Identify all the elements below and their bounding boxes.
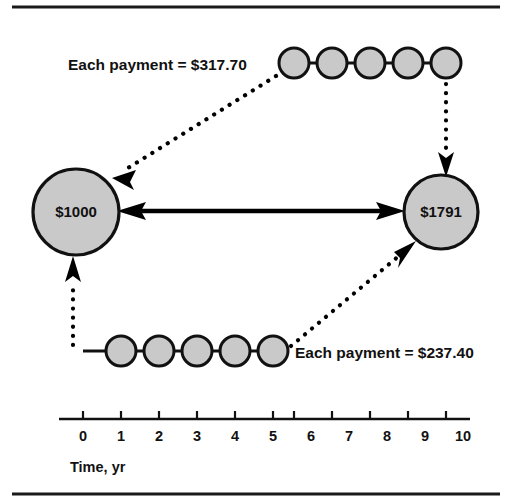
axis-tick-labels: 0 1 2 3 4 5 6 7 8 9 10 — [79, 428, 471, 444]
payment-circle-year-1[interactable] — [106, 336, 136, 366]
payment-circle-year-7[interactable] — [317, 48, 347, 78]
payment-circle-year-2[interactable] — [144, 336, 174, 366]
present-worth-label: $1000 — [55, 203, 97, 220]
payment-circle-year-5[interactable] — [258, 336, 288, 366]
axis-tick-label-7: 7 — [345, 428, 353, 444]
equivalence-double-arrow — [117, 202, 405, 220]
connector-top-series-to-future — [438, 84, 454, 177]
bottom-payment-series[interactable] — [83, 336, 288, 366]
arrowhead-bottom-to-present — [65, 256, 81, 282]
cash-flow-diagram: $1000 $1791 Each payment = $317.70 Each … — [0, 0, 512, 504]
payment-circle-year-4[interactable] — [220, 336, 250, 366]
bottom-series-annotation: Each payment = $237.40 — [295, 344, 474, 361]
payment-circle-year-6[interactable] — [279, 48, 309, 78]
time-axis: 0 1 2 3 4 5 6 7 8 9 10 Time, yr — [59, 411, 471, 475]
top-series-annotation: Each payment = $317.70 — [68, 56, 247, 73]
axis-tick-label-0: 0 — [79, 428, 87, 444]
dotted-line-top-to-present — [128, 76, 276, 168]
node-future-worth[interactable]: $1791 — [404, 175, 478, 249]
axis-tick-label-6: 6 — [307, 428, 315, 444]
figure-container: $1000 $1791 Each payment = $317.70 Each … — [0, 0, 512, 504]
axis-tick-label-9: 9 — [421, 428, 429, 444]
payment-circle-year-10[interactable] — [431, 48, 461, 78]
axis-tick-label-10: 10 — [455, 428, 471, 444]
axis-tick-label-4: 4 — [231, 428, 239, 444]
arrowhead-bottom-to-future — [394, 241, 416, 268]
axis-title: Time, yr — [70, 459, 126, 475]
future-worth-label: $1791 — [420, 203, 462, 220]
axis-tick-label-1: 1 — [117, 428, 125, 444]
payment-circle-year-8[interactable] — [355, 48, 385, 78]
axis-tick-label-3: 3 — [193, 428, 201, 444]
axis-tick-label-5: 5 — [269, 428, 277, 444]
arrowhead-top-to-future — [438, 152, 454, 177]
axis-tick-label-8: 8 — [383, 428, 391, 444]
connector-top-series-to-present — [112, 76, 276, 190]
dotted-line-bottom-to-future — [291, 255, 400, 346]
payment-circle-year-3[interactable] — [182, 336, 212, 366]
axis-tick-label-2: 2 — [155, 428, 163, 444]
connector-bottom-series-to-present — [65, 256, 81, 345]
top-payment-series[interactable] — [279, 48, 461, 78]
payment-circle-year-9[interactable] — [393, 48, 423, 78]
arrowhead-top-to-present — [112, 170, 136, 190]
node-present-worth[interactable]: $1000 — [33, 169, 119, 255]
connector-bottom-series-to-future — [291, 241, 416, 346]
